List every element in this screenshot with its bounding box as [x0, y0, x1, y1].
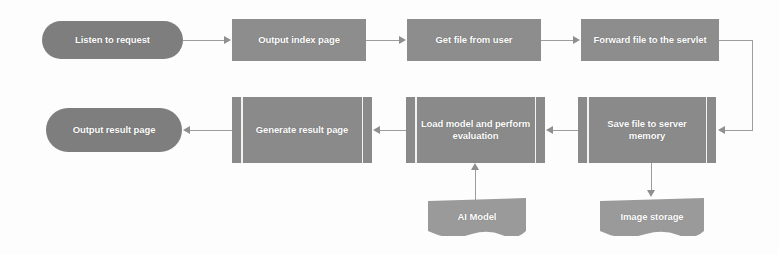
- arrowhead-left: [373, 126, 380, 134]
- arrowhead-left: [546, 126, 553, 134]
- edge-savefile-to-loadmodel: [553, 130, 578, 131]
- node-label: Load model and perform evaluation: [406, 118, 545, 142]
- node-label: Listen to request: [65, 34, 160, 46]
- node-save-file-to-server-memory[interactable]: Save file to server memory: [578, 97, 716, 163]
- node-label: Image storage: [610, 211, 693, 223]
- edge-index-to-getfile: [366, 40, 400, 41]
- arrowhead-left: [718, 126, 725, 134]
- edge-forward-elbow-bottom: [725, 130, 753, 131]
- arrowhead-up: [471, 163, 479, 170]
- node-get-file-from-user[interactable]: Get file from user: [407, 19, 541, 61]
- node-output-result-page[interactable]: Output result page: [46, 108, 182, 152]
- node-label: Get file from user: [426, 34, 523, 46]
- node-generate-result-page[interactable]: Generate result page: [232, 97, 372, 163]
- node-listen-to-request[interactable]: Listen to request: [42, 21, 183, 59]
- edge-loadmodel-to-generate: [380, 130, 406, 131]
- node-load-model-and-perform-evaluation[interactable]: Load model and perform evaluation: [406, 97, 545, 163]
- node-label: Save file to server memory: [578, 118, 716, 142]
- edge-listen-to-index: [183, 40, 225, 41]
- node-label: Forward file to the servlet: [584, 34, 717, 46]
- edge-savefile-to-imgstore: [651, 163, 652, 191]
- edge-forward-elbow-vertical: [752, 40, 753, 130]
- edge-getfile-to-forward: [541, 40, 574, 41]
- node-image-storage[interactable]: Image storage: [600, 198, 704, 236]
- arrowhead-right: [573, 36, 580, 44]
- node-ai-model[interactable]: AI Model: [428, 198, 526, 236]
- edge-aimodel-to-loadmodel: [475, 170, 476, 200]
- edge-generate-to-result: [190, 130, 232, 131]
- arrowhead-left: [183, 126, 190, 134]
- arrowhead-down: [647, 190, 655, 197]
- arrowhead-right: [399, 36, 406, 44]
- node-forward-file-to-servlet[interactable]: Forward file to the servlet: [581, 19, 719, 61]
- node-label: Output result page: [63, 124, 166, 136]
- node-label: AI Model: [448, 211, 507, 223]
- arrowhead-right: [224, 36, 231, 44]
- edge-forward-elbow-top: [719, 40, 753, 41]
- node-label: Generate result page: [246, 124, 359, 136]
- node-label: Output index page: [248, 34, 350, 46]
- node-output-index-page[interactable]: Output index page: [232, 19, 366, 61]
- flowchart-canvas: Listen to request Output index page Get …: [0, 0, 779, 255]
